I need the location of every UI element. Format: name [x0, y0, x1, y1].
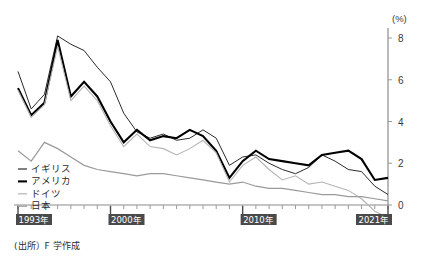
series-line-1 [18, 36, 388, 195]
x-axis-label-text: 2000年 [111, 215, 142, 225]
x-axis-label-text: 1993年 [19, 215, 50, 225]
y-tick-label: 8 [398, 33, 404, 44]
y-tick-label: 2 [398, 158, 404, 169]
y-tick-label: 4 [398, 117, 404, 128]
chart-canvas: (%)024681993年2000年2010年2021年イギリスアメリカドイツ日… [0, 0, 432, 266]
legend-label-3: ドイツ [31, 188, 61, 199]
x-axis-label-text: 2021年 [359, 215, 390, 225]
series-line-4 [18, 142, 388, 200]
legend-item-2: アメリカ [18, 175, 71, 186]
legend-label-1: イギリス [31, 163, 71, 174]
x-axis-label-group: 2000年 [109, 206, 145, 225]
source-note: (出所）F 学作成 [14, 240, 80, 251]
legend-label-4: 日本 [31, 200, 51, 211]
legend-label-2: アメリカ [31, 175, 71, 186]
y-axis-unit-label: (%) [392, 13, 407, 24]
series-line-3 [18, 46, 388, 217]
legend-item-4: 日本 [18, 200, 51, 211]
legend-item-3: ドイツ [18, 188, 61, 199]
x-axis-label-group: 2010年 [241, 206, 277, 225]
y-tick-label: 6 [398, 75, 404, 86]
y-tick-label: 0 [398, 200, 404, 211]
line-chart: (%)024681993年2000年2010年2021年イギリスアメリカドイツ日… [0, 0, 432, 266]
legend-item-1: イギリス [18, 163, 71, 174]
x-axis-label-text: 2010年 [243, 215, 274, 225]
